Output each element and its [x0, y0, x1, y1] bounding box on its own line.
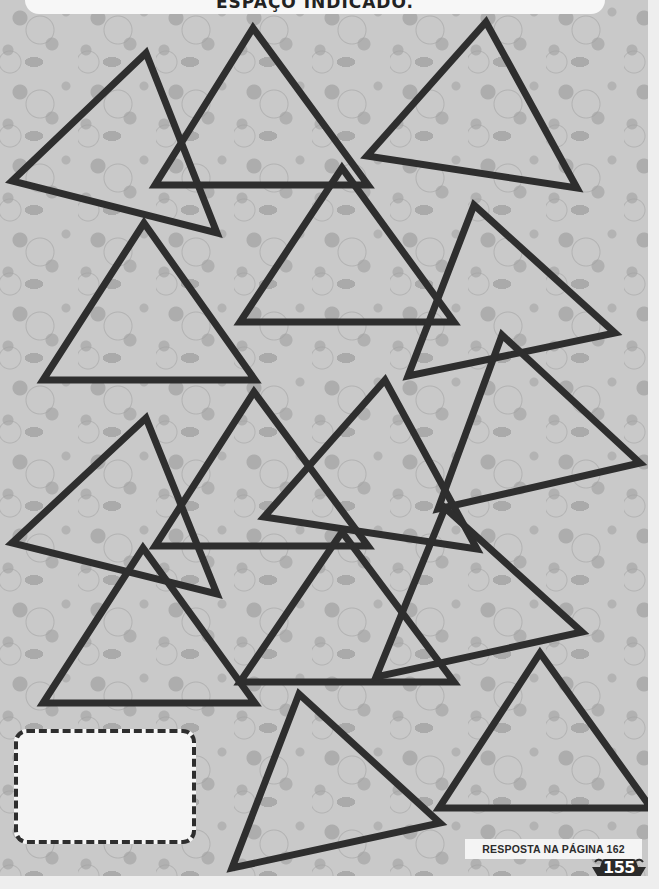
page-bottom-margin [0, 876, 659, 889]
triangle-m [376, 508, 582, 677]
triangle-k [264, 380, 477, 549]
triangle-l [240, 532, 454, 682]
triangle-d [43, 223, 255, 380]
answer-reference-label: RESPOSTA NA PÁGINA 162 [465, 839, 642, 859]
page-number-text: 155 [590, 858, 648, 876]
page-number-badge: 155 [590, 858, 648, 876]
triangle-j [43, 548, 255, 703]
triangle-a [12, 53, 217, 233]
activity-page: ESPAÇO INDICADO. RESPOSTA NA PÁGINA 162 [0, 0, 648, 876]
triangle-c [367, 22, 577, 188]
triangle-n [439, 653, 648, 808]
triangle-f [408, 205, 615, 376]
answer-write-area[interactable] [14, 729, 196, 844]
triangle-h [12, 418, 217, 594]
triangle-o [232, 694, 440, 868]
triangle-e [240, 168, 454, 322]
page-right-margin [648, 0, 659, 889]
